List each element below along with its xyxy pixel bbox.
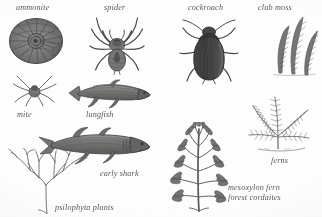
mesoxylon-fern-illustration [166, 122, 232, 212]
label-psilophyta-plants: psilophyta plants [55, 203, 114, 213]
label-early-shark: early shark [100, 169, 139, 179]
label-lungfish: lungfish [86, 110, 114, 120]
ammonite-illustration [6, 15, 68, 67]
label-forest-cordaites: forest cordaites [228, 193, 281, 203]
figure-canvas: ammonite [0, 0, 322, 217]
lungfish-illustration [64, 78, 152, 110]
label-club-moss: club moss [258, 3, 292, 13]
mite-illustration [12, 73, 58, 107]
ferns-illustration [238, 82, 318, 152]
label-spider: spider [104, 3, 125, 13]
label-mite: mite [17, 110, 32, 120]
label-ammonite: ammonite [16, 3, 50, 13]
cockroach-illustration [178, 14, 240, 88]
label-cockroach: cockroach [188, 3, 223, 13]
label-mesoxylon-fern: mesoxylon fern [228, 183, 280, 193]
club-moss-illustration [268, 14, 320, 76]
label-ferns: ferns [271, 156, 288, 166]
spider-illustration [88, 14, 146, 80]
